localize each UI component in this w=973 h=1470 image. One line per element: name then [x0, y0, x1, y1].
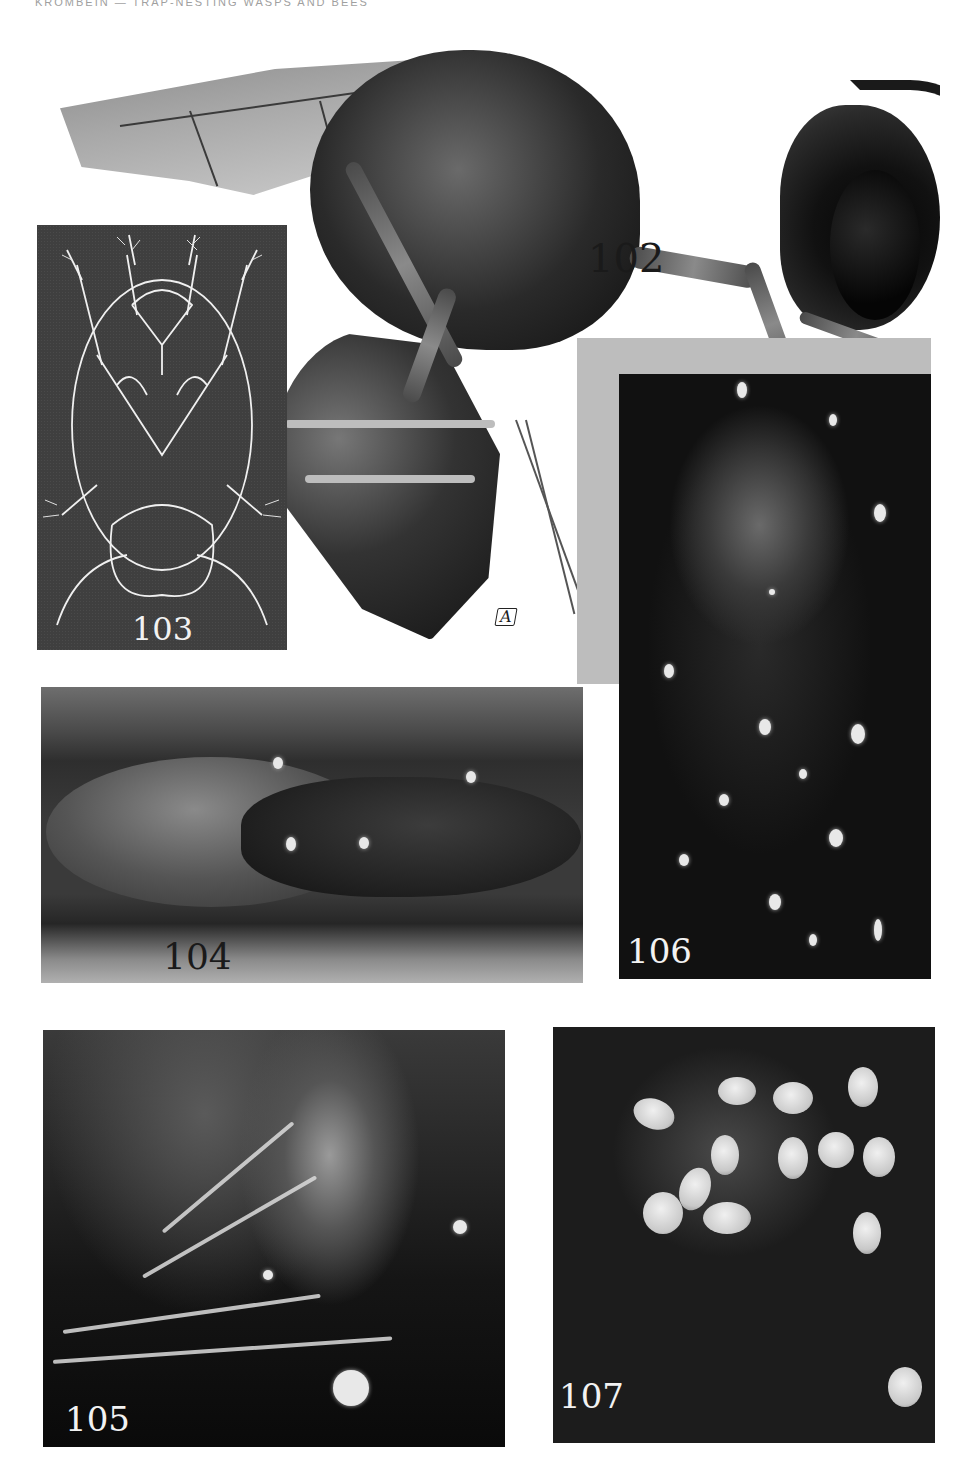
- mite: [711, 1135, 739, 1175]
- mite: [863, 1137, 895, 1177]
- mite-spot: [829, 414, 837, 426]
- wasp-abdomen: [270, 330, 500, 640]
- mite-spot: [874, 919, 882, 941]
- mite-spot: [679, 854, 689, 866]
- mite: [848, 1067, 878, 1107]
- mite-spot: [664, 664, 674, 678]
- figure-label-105: 105: [65, 1402, 130, 1436]
- wasp-hind-tarsus: [525, 420, 575, 615]
- mite-spot: [829, 829, 843, 847]
- mite-spot: [809, 934, 817, 946]
- mite-spot: [719, 794, 729, 806]
- mite: [643, 1192, 683, 1234]
- wasp-thorax: [310, 50, 640, 350]
- mite: [773, 1082, 813, 1114]
- wasp-eye: [830, 170, 920, 320]
- mite-spot: [799, 769, 807, 779]
- mite-spot: [263, 1270, 273, 1280]
- figure-105-photo: 105: [43, 1030, 505, 1447]
- mite-spot: [466, 771, 476, 783]
- abdomen-band: [285, 420, 495, 428]
- figure-label-106: 106: [627, 934, 692, 968]
- mite: [818, 1132, 854, 1168]
- mite-spot: [737, 382, 747, 398]
- mite: [333, 1370, 369, 1406]
- figure-label-103: 103: [132, 613, 193, 645]
- abdomen-band: [305, 475, 475, 483]
- light-streak: [63, 1294, 321, 1334]
- figure-label-104: 104: [163, 939, 232, 975]
- mite-spot: [769, 894, 781, 910]
- mite-spot: [359, 837, 369, 849]
- figure-107-photo: 107: [553, 1027, 935, 1443]
- figure-label-102: 102: [588, 238, 664, 278]
- figure-106-photo: 106: [619, 374, 931, 979]
- mite-spot: [874, 504, 886, 522]
- mite-spot: [851, 724, 865, 744]
- mite: [778, 1137, 808, 1179]
- figure-104-photo: 104: [41, 687, 583, 983]
- light-streak: [162, 1121, 295, 1233]
- mite-spot: [286, 837, 296, 851]
- mite: [853, 1212, 881, 1254]
- mite-line-art: [37, 225, 287, 650]
- mite-spot: [759, 719, 771, 735]
- mite-spot: [453, 1220, 467, 1234]
- figure-103-mite-drawing: 103: [37, 225, 287, 650]
- mite: [718, 1077, 756, 1105]
- mite-spot: [273, 757, 283, 769]
- mite-spot: [769, 589, 775, 595]
- mite: [703, 1202, 751, 1234]
- running-header: KROMBEIN — TRAP-NESTING WASPS AND BEES: [35, 0, 369, 8]
- figure-label-107: 107: [559, 1379, 624, 1413]
- light-streak: [53, 1336, 392, 1364]
- mite: [629, 1093, 679, 1136]
- artist-mark: A: [494, 608, 517, 626]
- mite: [888, 1367, 922, 1407]
